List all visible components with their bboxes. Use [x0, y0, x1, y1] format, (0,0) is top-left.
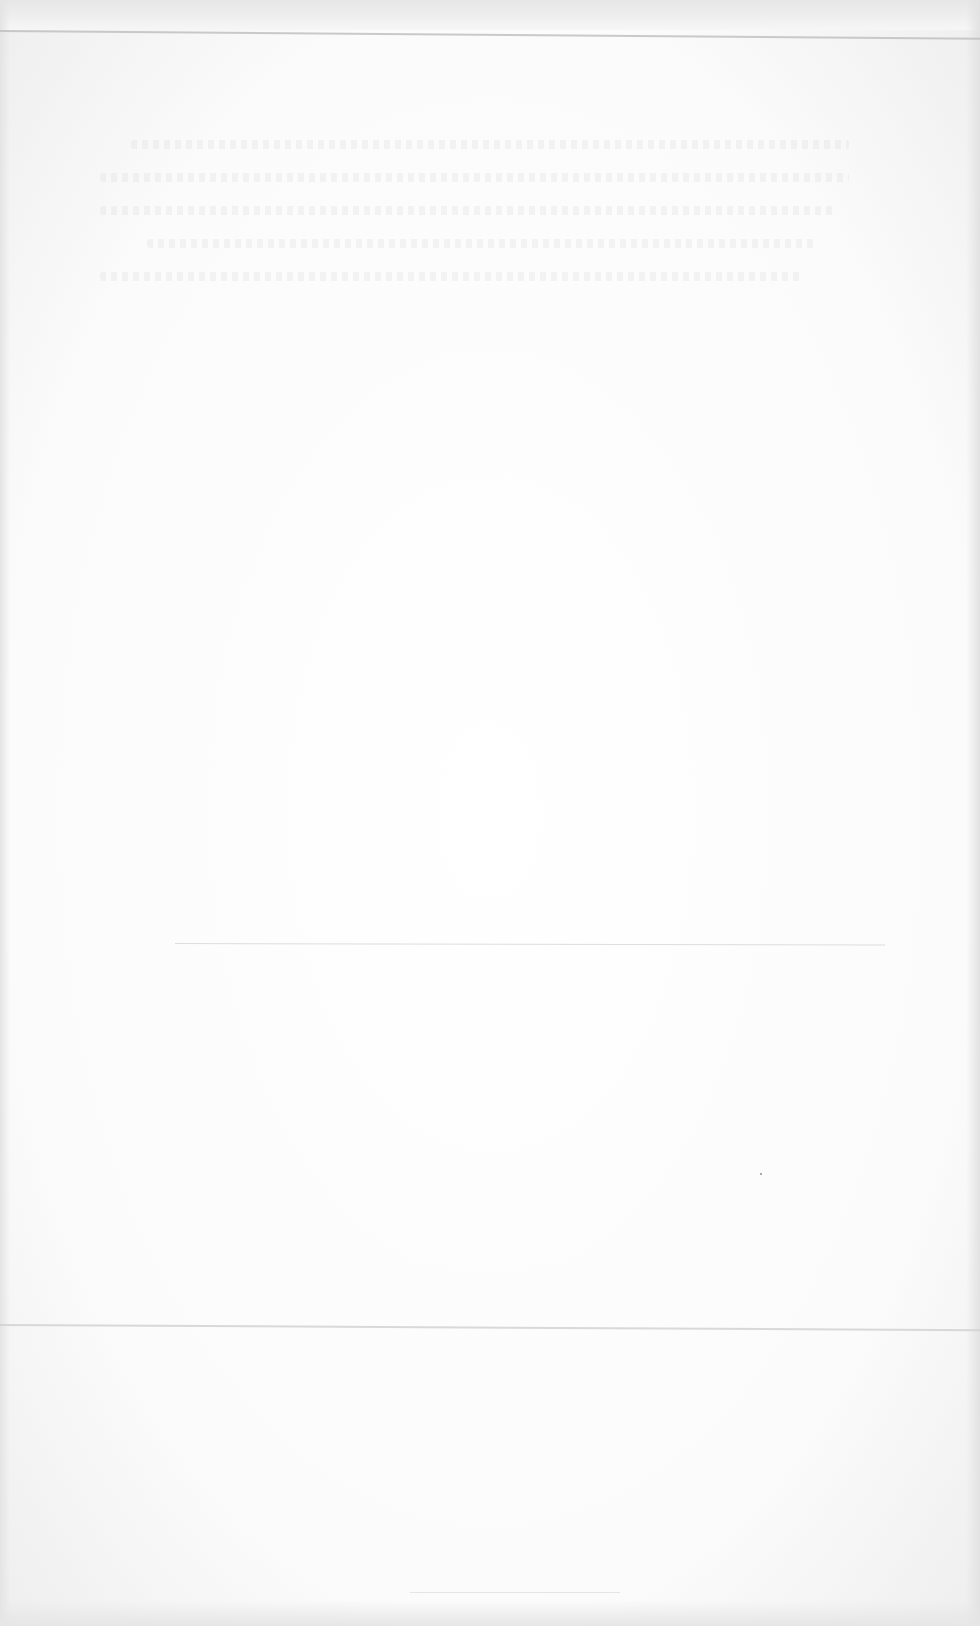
right-edge-shadow — [966, 0, 980, 1626]
dust-speck — [760, 1173, 762, 1175]
left-edge-shadow — [0, 0, 10, 1626]
faint-text-row — [131, 140, 849, 149]
bottom-edge-shadow — [0, 1600, 980, 1626]
fold-line-top — [0, 30, 980, 40]
faint-text-row — [100, 206, 833, 215]
faint-text-row — [100, 272, 802, 281]
scanned-page — [0, 0, 980, 1626]
top-edge-shadow — [0, 0, 980, 30]
faint-text-row — [147, 239, 818, 248]
bleed-through-text-area — [100, 140, 880, 305]
fold-line-middle — [175, 943, 885, 945]
fold-line-bottom — [410, 1592, 620, 1593]
fold-line-lower — [0, 1324, 980, 1331]
faint-text-row — [100, 173, 849, 182]
